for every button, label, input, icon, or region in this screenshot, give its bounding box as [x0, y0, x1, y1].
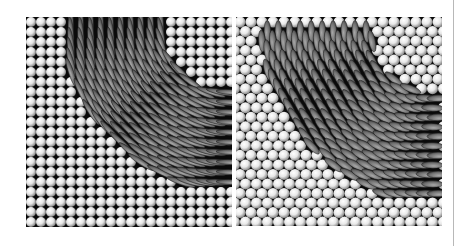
sphere-particle	[262, 102, 273, 113]
sphere-particle	[295, 197, 306, 208]
sphere-particle	[56, 127, 66, 137]
sphere-particle	[166, 37, 176, 47]
sphere-particle	[246, 36, 257, 47]
sphere-particle	[268, 131, 279, 142]
sphere-particle	[306, 159, 317, 170]
sphere-particle	[251, 83, 262, 94]
sphere-particle	[96, 147, 106, 157]
sphere-particle	[290, 207, 301, 218]
sphere-particle	[56, 187, 66, 197]
sphere-particle	[156, 217, 166, 227]
sphere-particle	[56, 117, 66, 127]
square-lattice-rod-domain-image	[26, 17, 232, 227]
sphere-particle	[136, 187, 146, 197]
sphere-particle	[411, 17, 422, 28]
sphere-particle	[273, 159, 284, 170]
sphere-particle	[46, 97, 56, 107]
sphere-particle	[36, 67, 46, 77]
sphere-particle	[106, 157, 116, 167]
sphere-particle	[394, 197, 405, 208]
sphere-particle	[279, 112, 290, 123]
sphere-particle	[345, 207, 356, 218]
sphere-particle	[126, 207, 136, 217]
sphere-particle	[26, 137, 36, 147]
sphere-particle	[46, 117, 56, 127]
sphere-particle	[411, 207, 422, 218]
sphere-particle	[284, 159, 295, 170]
sphere-particle	[166, 187, 176, 197]
sphere-particle	[323, 169, 334, 180]
sphere-particle	[36, 207, 46, 217]
sphere-particle	[246, 207, 257, 218]
sphere-particle	[246, 150, 257, 161]
sphere-particle	[76, 117, 86, 127]
sphere-particle	[136, 167, 146, 177]
sphere-particle	[317, 178, 328, 189]
sphere-particle	[206, 67, 216, 77]
sphere-particle	[246, 131, 257, 142]
sphere-particle	[166, 17, 176, 27]
sphere-particle	[66, 127, 76, 137]
sphere-particle	[405, 64, 416, 75]
sphere-particle	[66, 157, 76, 167]
sphere-particle	[251, 178, 262, 189]
sphere-particle	[36, 117, 46, 127]
sphere-particle	[206, 197, 216, 207]
sphere-particle	[422, 55, 433, 66]
sphere-particle	[56, 27, 66, 37]
sphere-particle	[186, 57, 196, 67]
sphere-particle	[196, 207, 206, 217]
sphere-particle	[106, 217, 116, 227]
sphere-particle	[116, 167, 126, 177]
sphere-particle	[26, 197, 36, 207]
sphere-particle	[86, 177, 96, 187]
sphere-particle	[36, 147, 46, 157]
sphere-particle	[246, 93, 257, 104]
sphere-particle	[257, 169, 268, 180]
sphere-particle	[96, 197, 106, 207]
sphere-particle	[96, 167, 106, 177]
sphere-particle	[36, 37, 46, 47]
sphere-particle	[46, 17, 56, 27]
sphere-particle	[301, 169, 312, 180]
sphere-particle	[26, 47, 36, 57]
sphere-particle	[257, 150, 268, 161]
sphere-particle	[76, 207, 86, 217]
sphere-particle	[56, 217, 66, 227]
sphere-particle	[56, 137, 66, 147]
sphere-particle	[86, 127, 96, 137]
sphere-particle	[156, 177, 166, 187]
sphere-particle	[156, 187, 166, 197]
sphere-particle	[46, 147, 56, 157]
sphere-particle	[394, 64, 405, 75]
sphere-particle	[186, 17, 196, 27]
sphere-particle	[356, 188, 367, 199]
sphere-particle	[56, 77, 66, 87]
sphere-particle	[328, 178, 339, 189]
sphere-particle	[372, 197, 383, 208]
sphere-particle	[422, 17, 433, 28]
sphere-particle	[176, 47, 186, 57]
sphere-particle	[76, 217, 86, 227]
sphere-particle	[246, 17, 257, 28]
sphere-particle	[279, 207, 290, 218]
sphere-particle	[284, 140, 295, 151]
sphere-particle	[186, 27, 196, 37]
sphere-particle	[176, 27, 186, 37]
sphere-particle	[106, 207, 116, 217]
sphere-particle	[166, 217, 176, 227]
sphere-particle	[206, 57, 216, 67]
sphere-particle	[136, 177, 146, 187]
sphere-particle	[186, 217, 196, 227]
sphere-particle	[422, 207, 433, 218]
sphere-particle	[251, 140, 262, 151]
sphere-particle	[176, 217, 186, 227]
right-simulation-panel	[236, 17, 442, 226]
sphere-particle	[246, 188, 257, 199]
sphere-particle	[284, 178, 295, 189]
sphere-particle	[394, 45, 405, 56]
sphere-particle	[290, 169, 301, 180]
sphere-particle	[46, 47, 56, 57]
sphere-particle	[361, 197, 372, 208]
sphere-particle	[196, 37, 206, 47]
